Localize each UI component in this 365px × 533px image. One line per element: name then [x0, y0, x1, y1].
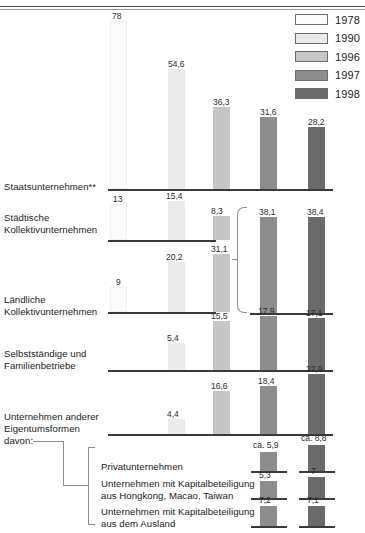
bar-andere-1990	[168, 419, 185, 434]
baseline-ausland-1998	[299, 526, 335, 528]
value-staedt-1996: 8,3	[211, 206, 223, 216]
category-label-selbst-line2: Familienbetriebe	[4, 360, 76, 372]
bar-privat-1997	[260, 452, 277, 471]
value-staedt-1990: 15,4	[166, 191, 183, 201]
legend-item-1997: 1997	[295, 68, 365, 83]
baseline-laend	[108, 312, 216, 314]
bar-staedt-1990	[168, 201, 185, 240]
bar-staat-1978	[110, 21, 127, 189]
bar-selbst-1997	[260, 316, 277, 370]
value-hkmt-1998: 7	[311, 466, 316, 476]
top-rule-secondary	[0, 9, 365, 10]
category-label-andere-davon: davon:	[4, 435, 33, 447]
baseline-privat-1998	[299, 471, 335, 473]
category-label-ausland-line1: Unternehmen mit Kapitalbeteiligung	[101, 506, 255, 518]
value-staat-1998: 28,2	[308, 117, 325, 127]
category-label-ausland-line2: aus dem Ausland	[101, 518, 175, 530]
bar-staat-1998	[308, 127, 325, 189]
legend-swatch-1998	[295, 88, 328, 99]
legend-swatch-1990	[295, 33, 328, 44]
value-selbst-1996: 15,5	[211, 311, 228, 321]
category-label-andere-line1: Unternehmen anderer	[4, 411, 99, 423]
value-andere-1998: 22,9	[306, 364, 323, 374]
value-ausland-1998: 7,1	[307, 495, 319, 505]
legend-item-1996: 1996	[295, 49, 365, 64]
value-staat-1978: 78	[112, 11, 121, 21]
category-label-andere-line2: Eigentumsformen	[4, 423, 80, 435]
category-label-selbst-line1: Selbstständige und	[4, 348, 87, 360]
legend-label-1996: 1996	[335, 51, 360, 63]
collective-group-brace-nub	[232, 259, 237, 260]
legend-label-1978: 1978	[335, 14, 360, 26]
legend-item-1990: 1990	[295, 31, 365, 46]
value-laend-1996: 31,1	[211, 244, 228, 254]
legend-item-1978: 1978	[295, 12, 365, 27]
value-selbst-1997: 17,9	[258, 306, 275, 316]
bar-laend-1996	[213, 254, 230, 312]
bar-staedt-1996	[213, 216, 230, 240]
baseline-staat	[108, 189, 333, 191]
legend-item-1998: 1998	[295, 86, 365, 101]
value-andere-1990: 4,4	[167, 409, 179, 419]
bar-andere-1997	[260, 386, 277, 434]
bar-staat-1997	[260, 117, 277, 189]
category-label-staat: Staatsunternehmen**	[4, 181, 96, 193]
value-laend-1990: 20,2	[166, 252, 183, 262]
value-ausland-1997: 7,2	[259, 495, 271, 505]
chart-root: 1978 1990 1996 1997 1998 78 54,6 36,3 31…	[0, 0, 365, 533]
category-label-hkmt-line1: Unternehmen mit Kapitalbeteiligung	[101, 478, 255, 490]
category-label-privat: Privatunternehmen	[101, 461, 183, 473]
davon-connector-vertical	[63, 441, 64, 485]
top-rule	[0, 6, 365, 7]
category-label-laend-line1: Ländliche	[4, 294, 46, 306]
value-andere-1996: 16,6	[211, 381, 228, 391]
value-selbst-1990: 5,4	[167, 333, 179, 343]
collective-group-brace	[237, 207, 247, 313]
bar-andere-1996	[213, 391, 230, 434]
bar-selbst-1996	[213, 321, 230, 370]
baseline-staedt	[108, 240, 216, 242]
value-staat-1997: 31,6	[260, 107, 277, 117]
bar-staat-1996	[213, 107, 230, 189]
bar-selbst-1990	[168, 343, 185, 370]
davon-connector-stub	[33, 441, 63, 442]
baseline-selbst	[108, 370, 333, 372]
category-label-hkmt-line2: aus Hongkong, Macao, Taiwan	[101, 490, 233, 502]
value-staat-1996: 36,3	[213, 97, 230, 107]
value-hkmt-1997: 5,3	[259, 470, 271, 480]
baseline-ausland-1997	[251, 526, 287, 528]
davon-connector-arm	[63, 485, 88, 486]
legend-label-1998: 1998	[335, 88, 360, 100]
value-collective-1998: 38,4	[307, 207, 324, 217]
value-collective-1997: 38,1	[259, 207, 276, 217]
bar-andere-1998	[308, 374, 325, 434]
bar-staedt-1978	[110, 204, 127, 240]
bar-staat-1990	[168, 69, 185, 189]
value-selbst-1998: 17,1	[306, 308, 323, 318]
value-privat-1998: ca. 8,8	[301, 433, 327, 443]
value-andere-1997: 18,4	[258, 376, 275, 386]
legend-swatch-1978	[295, 14, 328, 25]
legend-label-1990: 1990	[335, 32, 360, 44]
value-staat-1990: 54,6	[168, 59, 185, 69]
bar-ausland-1998	[308, 506, 325, 526]
legend-swatch-1997	[295, 70, 328, 81]
value-laend-1978: 9	[116, 277, 121, 287]
bar-laend-1978	[110, 287, 127, 312]
legend-swatch-1996	[295, 51, 328, 62]
bar-ausland-1997	[260, 506, 277, 526]
davon-group-bracket	[88, 447, 95, 525]
legend-label-1997: 1997	[335, 69, 360, 81]
bar-laend-1990	[168, 262, 185, 312]
bar-collective-1997	[260, 217, 277, 313]
baseline-andere	[108, 434, 333, 436]
legend: 1978 1990 1996 1997 1998	[295, 12, 365, 105]
category-label-laend-line2: Kollektivunternehmen	[4, 306, 97, 318]
bar-collective-1998	[308, 217, 325, 313]
category-label-staedt-line1: Städtische	[4, 212, 49, 224]
value-privat-1997: ca. 5,9	[253, 440, 279, 450]
category-label-staedt-line2: Kollektivunternehmen	[4, 224, 97, 236]
value-staedt-1978: 13	[113, 194, 122, 204]
bar-selbst-1998	[308, 318, 325, 370]
